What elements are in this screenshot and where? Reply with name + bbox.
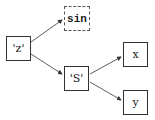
node-z: 'z': [6, 36, 31, 61]
node-y: y: [123, 90, 148, 115]
node-sin: sin: [64, 6, 90, 31]
node-x: x: [123, 42, 148, 67]
edge-S-y: [90, 82, 121, 100]
node-S: 'S': [64, 66, 89, 91]
edge-z-S: [31, 54, 62, 74]
edge-S-x: [90, 57, 121, 74]
edge-z-sin: [31, 20, 62, 42]
